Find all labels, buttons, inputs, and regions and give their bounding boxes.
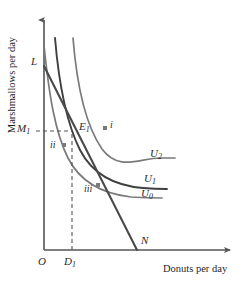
x-tick-label-d1-base: D [64,255,72,267]
indifference-curve-u2 [73,38,175,162]
plot-canvas [0,0,242,284]
point-marker-ii [62,143,66,147]
curve-label-u2-subscript: 2 [158,152,162,161]
y-tick-label-m1-base: M [17,122,26,134]
point-label-iii: iii [84,184,92,194]
y-tick-label-m1-subscript: 1 [26,127,30,136]
curve-label-u1-subscript: 1 [152,177,156,186]
x-tick-label-d1-subscript: 1 [72,260,76,269]
x-axis-title: Donuts per day [163,264,227,275]
point-label-ii: ii [50,140,56,150]
curve-label-u0-base: U [141,187,149,199]
equilibrium-label-e1-base: E [79,120,86,132]
equilibrium-label-e1: E1 [79,121,90,132]
origin-label: O [38,256,46,267]
x-tick-label-d1: D1 [64,256,76,267]
budget-line-ln [44,66,137,250]
curve-label-u0-subscript: 0 [149,192,153,201]
y-tick-label-m1: M1 [17,123,30,134]
curve-label-u2: U2 [150,148,162,159]
point-marker-iii [96,183,100,187]
curve-label-u1: U1 [144,173,156,184]
point-marker-i [103,126,107,130]
point-label-i: i [110,120,113,130]
y-axis-title: Marshmallows per day [7,10,23,160]
budget-line-start-label-l: L [31,56,37,67]
curve-label-u1-base: U [144,172,152,184]
indifference-curve-u1 [55,38,167,189]
budget-line-end-label-n: N [141,235,148,246]
equilibrium-label-e1-subscript: 1 [86,125,90,134]
curve-label-u2-base: U [150,147,158,159]
curve-label-u0: U0 [141,188,153,199]
indifference-curve-figure: Marshmallows per day Donuts per day O D1… [0,0,242,284]
